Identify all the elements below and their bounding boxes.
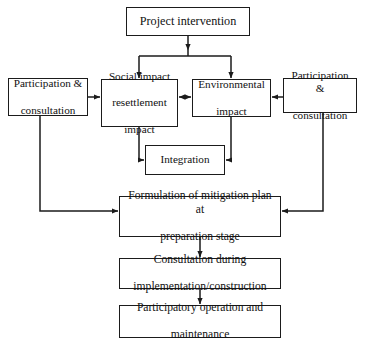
node-formulation-of-mitigation-plan[interactable]: Formulation of mitigation plan at prepar… [119, 196, 281, 237]
node-participatory-line2: maintenance [123, 328, 277, 342]
connector-participation-right-to-formulation [282, 113, 323, 211]
flowchart-diagram: Project intervention Participation & con… [0, 0, 367, 343]
node-environmental-impact-line2: impact [196, 105, 267, 118]
node-consultation-during-implementation[interactable]: Consultation during implementation/const… [119, 258, 281, 289]
node-social-impact-text: Social impact resettlement impact [105, 70, 174, 136]
connector-environmental-to-integration [226, 117, 231, 160]
node-formulation-text: Formulation of mitigation plan at prepar… [123, 189, 277, 244]
node-participation-consultation-left[interactable]: Participation & consultation [8, 78, 88, 116]
node-consultation-line2: implementation/construction [123, 280, 277, 294]
node-participation-left-text: Participation & consultation [12, 77, 84, 117]
node-environmental-impact-line1: Environmental [196, 78, 267, 91]
node-environmental-impact-text: Environmental impact [196, 78, 267, 118]
node-social-impact-resettlement-impact[interactable]: Social impact resettlement impact [101, 79, 178, 127]
node-integration-label: Integration [149, 153, 221, 166]
node-social-impact-line1: Social impact [105, 70, 174, 83]
node-social-impact-line3: impact [105, 123, 174, 136]
node-formulation-line1: Formulation of mitigation plan at [123, 189, 277, 216]
node-participatory-text: Participatory operation and maintenance [123, 301, 277, 342]
node-integration[interactable]: Integration [145, 145, 225, 175]
node-participation-right-line2: consultation [287, 109, 353, 122]
node-participation-consultation-right[interactable]: Participation & consultation [283, 78, 357, 113]
node-participation-left-line1: Participation & [12, 77, 84, 90]
node-participation-right-text: Participation & consultation [287, 69, 353, 122]
node-participation-right-line1: Participation & [287, 69, 353, 95]
node-social-impact-line2: resettlement [105, 96, 174, 109]
node-consultation-text: Consultation during implementation/const… [123, 253, 277, 294]
node-participation-left-line2: consultation [12, 104, 84, 117]
node-project-intervention[interactable]: Project intervention [126, 7, 250, 36]
node-consultation-line1: Consultation during [123, 253, 277, 267]
node-formulation-line2: preparation stage [123, 230, 277, 244]
node-participatory-operation-and-maintenance[interactable]: Participatory operation and maintenance [119, 305, 281, 338]
node-participatory-line1: Participatory operation and [123, 301, 277, 315]
node-environmental-impact[interactable]: Environmental impact [192, 79, 271, 117]
node-project-intervention-label: Project intervention [130, 14, 246, 28]
